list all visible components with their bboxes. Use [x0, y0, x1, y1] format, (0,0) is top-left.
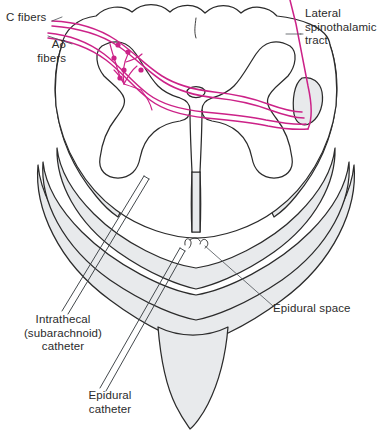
- label-epidural-space: Epidural space: [273, 302, 350, 316]
- label-ad-fibers: Aδ fibers: [4, 38, 66, 65]
- cut-dura-marks: [185, 238, 208, 248]
- synapse-dot: [111, 55, 116, 60]
- synapse-dot: [121, 67, 126, 72]
- synapse-dot: [125, 49, 130, 54]
- label-intrathecal-catheter: Intrathecal (subarachnoid) catheter: [8, 313, 118, 354]
- synapse-dot: [115, 42, 120, 47]
- label-c-fibers: C fibers: [6, 11, 46, 25]
- synapse-dot: [138, 67, 143, 72]
- label-epidural-catheter: Epidural catheter: [62, 389, 158, 416]
- spinous-process: [158, 327, 228, 429]
- label-lateral-spinothalamic-tract: Lateral spinothalamic tract: [305, 7, 389, 48]
- leader-c-fibers: [52, 17, 62, 21]
- synapse-dot: [117, 75, 122, 80]
- spinal-cord-illustration: .ink { fill:none; stroke:#2b2b2b; stroke…: [0, 0, 391, 433]
- fissure-shading: [192, 172, 200, 232]
